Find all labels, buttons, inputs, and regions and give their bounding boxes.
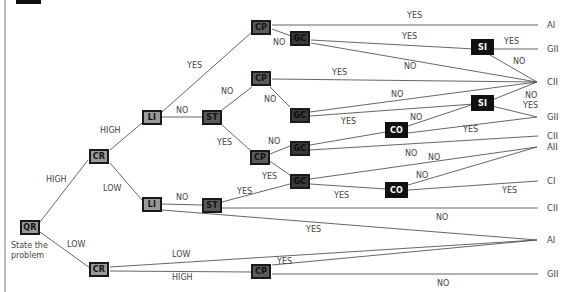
edge-label: NO	[513, 58, 525, 66]
node-st-top: ST	[202, 110, 222, 125]
node-co-1: CO	[385, 122, 408, 138]
edge-label: NO	[525, 92, 537, 100]
node-qr: QR	[20, 220, 40, 235]
edge-label: HIGH	[100, 127, 121, 135]
edge-label: HIGH	[172, 274, 193, 282]
edge-label: YES	[334, 192, 349, 200]
outcome-label: GII	[547, 270, 559, 279]
edge-label: NO	[221, 88, 233, 96]
edge-label: YES	[523, 102, 538, 110]
outcome-label: CII	[547, 78, 558, 87]
edge-label: NO	[391, 91, 403, 99]
node-co-2: CO	[385, 182, 408, 198]
edge-label: YES	[217, 139, 232, 147]
edge-label: NO	[436, 214, 448, 222]
edge-label: YES	[341, 118, 356, 126]
edge-label: YES	[504, 38, 519, 46]
outcome-label: CII	[547, 204, 558, 213]
outcome-label: GII	[547, 113, 559, 122]
node-cp-2: CP	[251, 71, 271, 86]
edge-label: NO	[416, 172, 428, 180]
start-caption-line1: State the	[11, 241, 48, 251]
edge-label: YES	[262, 173, 277, 181]
node-gc-3: GC	[290, 141, 310, 156]
edge-label: YES	[306, 226, 321, 234]
outcome-label: AI	[547, 236, 555, 245]
edge-label: YES	[332, 69, 347, 77]
node-gc-2: GC	[290, 108, 310, 123]
start-caption-line2: problem	[11, 251, 48, 261]
edge-label: NO	[264, 96, 276, 104]
edge-label: LOW	[67, 241, 85, 249]
outcome-label: GII	[547, 45, 559, 54]
node-si-1: SI	[471, 39, 494, 55]
node-cp-1: CP	[251, 20, 271, 35]
node-si-2: SI	[471, 95, 494, 111]
edge-label: YES	[187, 62, 202, 70]
node-li-top: LI	[142, 110, 162, 125]
edge-label: LOW	[172, 251, 190, 259]
edge-label: NO	[404, 63, 416, 71]
edge-label: HIGH	[46, 176, 67, 184]
outcome-label: AII	[547, 143, 558, 152]
node-gc-1: GC	[290, 31, 310, 46]
edge-label: NO	[428, 154, 440, 162]
edge-label: YES	[407, 12, 422, 20]
node-cr-low: CR	[89, 262, 109, 277]
outcome-label: AI	[547, 21, 555, 30]
edge-label: NO	[437, 280, 449, 288]
node-cp-3: CP	[250, 150, 270, 165]
edge-label: NO	[176, 107, 188, 115]
node-cr-high: CR	[89, 149, 109, 164]
node-st-bottom: ST	[202, 198, 222, 213]
edge-label: YES	[277, 258, 292, 266]
edge-label: LOW	[103, 185, 121, 193]
node-cp-4: CP	[251, 264, 271, 279]
node-gc-4: GC	[290, 174, 310, 189]
node-li-bottom: LI	[142, 197, 162, 212]
edge-label: NO	[405, 150, 417, 158]
edge-label: YES	[502, 187, 517, 195]
outcome-label: CI	[547, 177, 555, 186]
edge-label: NO	[176, 194, 188, 202]
start-caption: State the problem	[11, 241, 48, 261]
edge-label: YES	[402, 33, 417, 41]
edge-label: NO	[268, 138, 280, 146]
edge-label: YES	[237, 188, 252, 196]
outcome-label: CII	[547, 132, 558, 141]
edge-label: NO	[410, 114, 422, 122]
edge-label: NO	[273, 39, 285, 47]
edge-label: YES	[463, 126, 478, 134]
